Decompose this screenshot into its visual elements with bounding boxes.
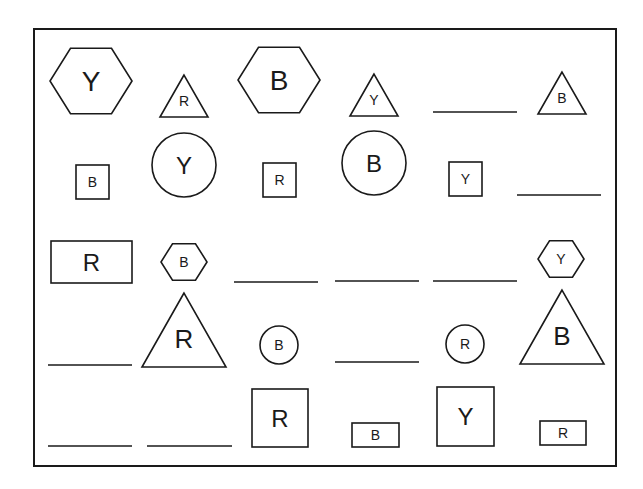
circle-y: Y <box>152 133 216 197</box>
shape-letter: R <box>271 405 288 432</box>
shape-letter: Y <box>556 251 566 267</box>
shape-letter: R <box>460 336 470 352</box>
shape-grid: YRBYBBYRBYRBYRBRBRBYR <box>48 47 604 447</box>
square-y: Y <box>449 162 482 196</box>
rectangle-b: B <box>352 423 399 447</box>
shape-letter: R <box>558 425 568 441</box>
square-r: R <box>263 163 296 197</box>
shape-letter: Y <box>369 92 379 108</box>
shape-letter: B <box>270 65 289 96</box>
triangle-b: B <box>538 72 586 114</box>
shape-letter: R <box>83 249 100 276</box>
hexagon-b: B <box>161 244 207 281</box>
shape-letter: B <box>274 337 283 353</box>
square-b: B <box>76 165 109 199</box>
shape-letter: B <box>179 254 188 270</box>
circle-b: B <box>260 326 298 364</box>
shape-letter: R <box>274 172 284 188</box>
square-y: Y <box>437 387 494 446</box>
triangle-r: R <box>142 293 226 367</box>
hexagon-y: Y <box>538 241 584 278</box>
triangle-y: Y <box>350 74 398 116</box>
shape-letter: B <box>557 90 566 106</box>
square-r: R <box>252 389 308 447</box>
shape-letter: R <box>179 93 189 109</box>
shape-letter: Y <box>82 66 101 97</box>
triangle-r: R <box>160 75 208 117</box>
shape-letter: R <box>175 324 194 354</box>
shape-letter: Y <box>457 403 473 430</box>
hexagon-b: B <box>238 47 320 112</box>
hexagon-y: Y <box>50 48 132 113</box>
rectangle-r: R <box>540 421 586 445</box>
shape-letter: B <box>88 174 97 190</box>
shape-puzzle-canvas: YRBYBBYRBYRBYRBRBRBYR <box>0 0 643 489</box>
shape-letter: Y <box>176 152 192 179</box>
circle-b: B <box>342 131 406 195</box>
rectangle-r: R <box>51 241 132 283</box>
triangle-b: B <box>520 290 604 364</box>
puzzle-frame <box>34 29 616 466</box>
shape-letter: Y <box>461 171 471 187</box>
shape-letter: B <box>366 150 382 177</box>
shape-letter: B <box>553 321 570 351</box>
circle-r: R <box>446 325 484 363</box>
shape-letter: B <box>371 427 380 443</box>
